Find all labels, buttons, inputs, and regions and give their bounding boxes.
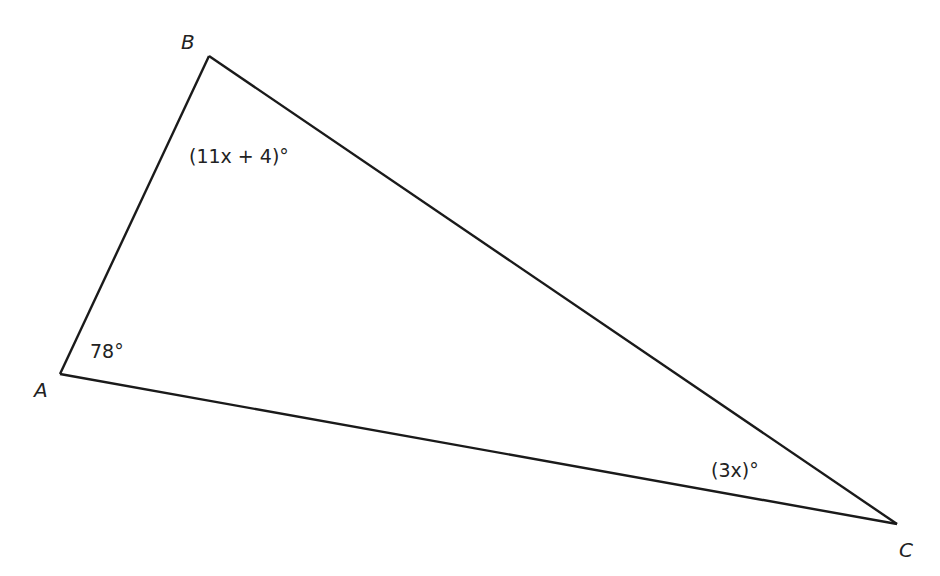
- vertex-label-a: A: [32, 378, 48, 402]
- angle-label-a: 78°: [90, 340, 124, 362]
- vertex-label-b: B: [181, 30, 195, 54]
- angle-label-b: (11x + 4)°: [189, 145, 289, 167]
- side-ca: [60, 374, 897, 524]
- vertex-label-c: C: [899, 538, 913, 562]
- triangle-diagram: B A C (11x + 4)° 78° (3x)°: [0, 0, 940, 576]
- side-bc: [209, 56, 897, 524]
- angle-label-c: (3x)°: [711, 459, 759, 481]
- side-ab: [60, 56, 209, 374]
